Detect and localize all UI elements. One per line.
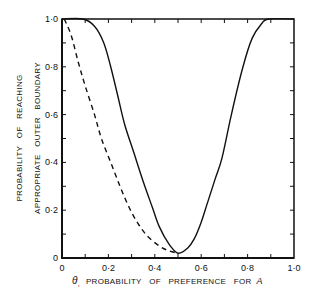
axis-left bbox=[62, 19, 294, 258]
x-tick-label: 0 bbox=[59, 263, 64, 273]
y-tick-label: 0·4 bbox=[45, 157, 58, 167]
y-tick-label: 0·2 bbox=[45, 205, 58, 215]
axes-frame bbox=[62, 19, 294, 258]
y-axis-title-line1: PROBABILITY OF REACHING bbox=[15, 74, 24, 201]
x-tick-label: 1·0 bbox=[287, 263, 300, 273]
chart: 00·20·40·60·81·0 00·20·40·60·81·0 θ,PROB… bbox=[0, 0, 315, 301]
x-axis-title-text: PROBABILITY OF PREFERENCE FOR bbox=[86, 277, 252, 286]
ticks bbox=[62, 19, 294, 258]
x-tick-labels: 00·20·40·60·81·0 bbox=[59, 263, 300, 273]
x-tick-label: 0·8 bbox=[241, 263, 254, 273]
x-tick-label: 0·2 bbox=[102, 263, 115, 273]
x-axis-title: θ,PROBABILITY OF PREFERENCE FORA bbox=[72, 275, 263, 287]
solid-curve bbox=[62, 18, 294, 253]
x-tick-label: 0·6 bbox=[195, 263, 208, 273]
dashed-curve bbox=[64, 19, 178, 253]
y-tick-label: 0 bbox=[53, 253, 58, 263]
y-tick-label: 1·0 bbox=[45, 14, 58, 24]
y-tick-labels: 00·20·40·60·81·0 bbox=[45, 14, 58, 263]
theta-subscript: , bbox=[78, 280, 80, 287]
x-tick-label: 0·4 bbox=[148, 263, 161, 273]
y-tick-label: 0·6 bbox=[45, 110, 58, 120]
x-axis-var: A bbox=[255, 276, 262, 286]
y-axis-title-line2: APPROPRIATE OUTER BOUNDARY bbox=[33, 62, 42, 214]
y-tick-label: 0·8 bbox=[45, 62, 58, 72]
plot-area bbox=[62, 18, 294, 258]
